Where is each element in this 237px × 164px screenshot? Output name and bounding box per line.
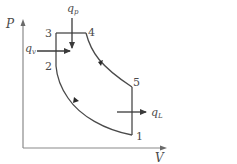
- pv-diagram: P V qp qv qL 1 2 3 4 5: [0, 0, 237, 164]
- point-label-5: 5: [133, 76, 140, 89]
- y-axis-label: P: [5, 17, 15, 31]
- point-label-2: 2: [45, 60, 52, 73]
- ql-label: qL: [151, 106, 163, 120]
- process-1-2: [56, 66, 132, 135]
- point-label-4: 4: [88, 26, 95, 39]
- direction-arrow-icon: [73, 97, 79, 103]
- process-4-5: [86, 33, 132, 87]
- cycle: [56, 33, 132, 135]
- x-axis-label: V: [155, 151, 165, 164]
- y-axis-arrow-icon: [21, 19, 26, 26]
- point-label-3: 3: [45, 27, 52, 40]
- qv-label: qv: [25, 42, 36, 56]
- point-label-1: 1: [136, 130, 143, 143]
- qp-label: qp: [67, 2, 79, 16]
- x-axis-arrow-icon: [160, 146, 167, 151]
